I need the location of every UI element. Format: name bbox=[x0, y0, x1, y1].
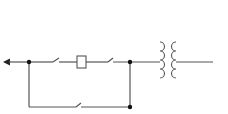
switch-top-1 bbox=[53, 58, 59, 62]
junction-right-bottom bbox=[128, 105, 132, 109]
junction-right-top bbox=[128, 60, 132, 64]
circuit-diagram bbox=[0, 0, 228, 114]
switch-bottom bbox=[76, 103, 81, 107]
bottom-branch bbox=[29, 62, 130, 107]
transformer-icon bbox=[160, 42, 176, 78]
junction-left bbox=[27, 60, 31, 64]
output-arrow-icon bbox=[3, 59, 29, 66]
top-wire bbox=[29, 56, 213, 68]
coil-box bbox=[77, 56, 86, 68]
switch-top-2 bbox=[108, 58, 113, 62]
